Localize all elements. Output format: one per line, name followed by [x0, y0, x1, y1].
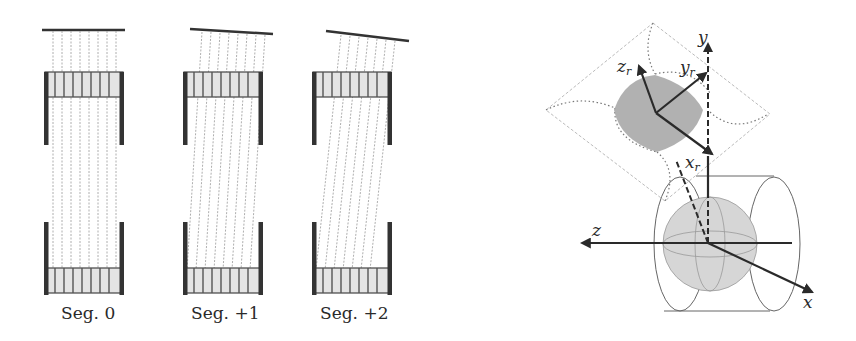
rail-left-bottom	[312, 222, 317, 295]
rail-right-top	[259, 72, 264, 145]
xr-label: xr	[685, 152, 701, 174]
projection-lines	[53, 31, 116, 270]
projection-lines	[187, 32, 265, 270]
segment-plus-2-label: Seg. +2	[320, 303, 388, 323]
rail-left-bottom	[44, 222, 49, 295]
rail-left-top	[312, 72, 317, 145]
z-label: z	[591, 220, 602, 240]
rail-left-top	[183, 72, 188, 145]
rail-right-bottom	[388, 222, 393, 295]
yr-label: yr	[679, 57, 696, 79]
rail-left-bottom	[183, 222, 188, 295]
segment-0-label: Seg. 0	[61, 303, 115, 323]
rail-right-top	[388, 72, 393, 145]
segment-plus-2	[312, 31, 409, 295]
segment-0	[42, 30, 125, 295]
detector-bar	[190, 29, 273, 34]
segment-plus-1	[183, 29, 273, 295]
rail-right-bottom	[120, 222, 125, 295]
figure-canvas: Seg. 0 Seg. +1 Seg. +2	[0, 0, 856, 341]
rail-right-bottom	[259, 222, 264, 295]
y-label: y	[697, 27, 708, 47]
rail-left-top	[44, 72, 49, 145]
zr-label: zr	[616, 56, 632, 78]
segment-plus-1-label: Seg. +1	[191, 303, 259, 323]
coordinate-diagram: y z x zr yr xr	[546, 23, 813, 312]
projection-lines	[316, 35, 395, 270]
x-label: x	[803, 292, 813, 312]
rail-right-top	[120, 72, 125, 145]
